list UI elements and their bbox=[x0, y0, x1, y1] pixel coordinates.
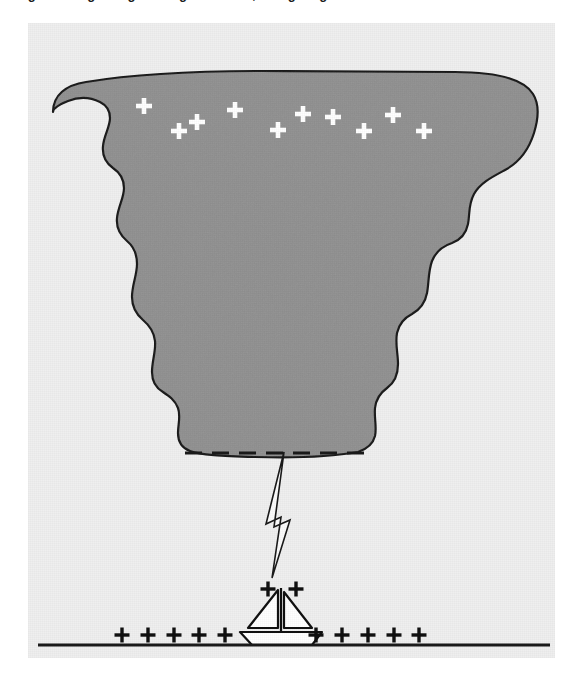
lightning-bolt-shape bbox=[266, 452, 290, 578]
figure-image-panel bbox=[28, 23, 555, 658]
figure-caption-text: Figure 3: Lightning striking a sailboat;… bbox=[16, 0, 474, 2]
figure-caption-strip: Figure 3: Lightning striking a sailboat;… bbox=[0, 0, 584, 3]
sailboat-back-sail bbox=[284, 592, 312, 628]
cumulonimbus-cloud-shape bbox=[53, 71, 538, 457]
sailboat-front-sail bbox=[248, 590, 278, 628]
thunderstorm-diagram-svg bbox=[28, 23, 555, 658]
